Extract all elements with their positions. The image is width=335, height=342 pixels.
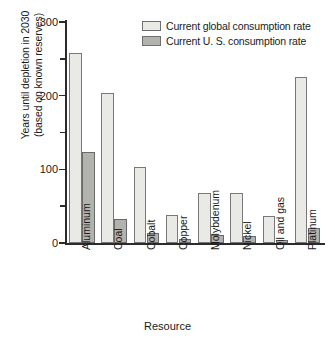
chart-legend: Current global consumption rate Current … <box>142 20 311 47</box>
legend-swatch-us-icon <box>142 36 161 46</box>
bar-global <box>101 93 114 243</box>
y-tick-label: 300 <box>24 16 58 28</box>
y-tick-label: 100 <box>24 163 58 175</box>
bar-group <box>98 22 130 243</box>
x-category-label: Aluminum <box>80 203 92 250</box>
x-category-label: Oil and gas <box>274 197 286 250</box>
bar-chart-figure: Years until depletion in 2030 (based on … <box>0 0 335 342</box>
y-tick-major <box>59 169 66 170</box>
bar-group <box>227 22 259 243</box>
legend-item-global: Current global consumption rate <box>142 20 311 32</box>
bar-group <box>163 22 195 243</box>
y-tick-major <box>59 21 66 22</box>
legend-label-us: Current U. S. consumption rate <box>166 35 306 47</box>
legend-item-us: Current U. S. consumption rate <box>142 35 311 47</box>
y-tick-label: 200 <box>24 90 58 102</box>
x-category-label: Platinum <box>306 209 318 250</box>
y-tick-major <box>59 242 66 243</box>
x-category-label: Coal <box>112 228 124 250</box>
bar-group <box>131 22 163 243</box>
x-category-label: Copper <box>177 216 189 250</box>
y-tick-major <box>59 95 66 96</box>
x-axis-title: Resource <box>0 320 335 332</box>
legend-swatch-global-icon <box>142 21 161 31</box>
x-category-label: Molybdenum <box>209 190 221 250</box>
x-category-label: Nickel <box>241 221 253 250</box>
y-tick-label: 0 <box>24 237 58 249</box>
x-category-label: Cobalt <box>145 220 157 250</box>
legend-label-global: Current global consumption rate <box>166 20 311 32</box>
x-axis-line <box>65 243 325 245</box>
